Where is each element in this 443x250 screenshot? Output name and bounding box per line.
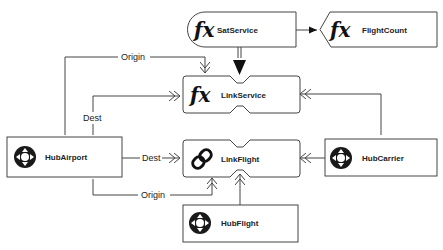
node-hubflight[interactable]: HubFlight [183,205,298,242]
svg-text:LinkService: LinkService [221,91,266,100]
function-icon: fx [192,18,216,42]
hub-icon [14,146,36,168]
function-icon: fx [328,18,352,42]
node-flightcount[interactable]: fx FlightCount [320,12,437,47]
edge-hubairport-linkflight-origin: Origin [93,178,212,201]
edge-hubcarrier-linkservice [300,94,381,135]
hub-icon [330,147,352,169]
edge-label-dest-2: Dest [142,153,161,163]
svg-text:FlightCount: FlightCount [362,26,407,35]
edge-label-dest: Dest [83,113,102,123]
svg-text:HubFlight: HubFlight [221,219,259,228]
edge-hubairport-linkflight-dest: Dest [122,152,180,164]
node-hubcarrier[interactable]: HubCarrier [325,139,437,176]
edge-label-origin-2: Origin [141,190,165,200]
function-icon: fx [188,83,212,107]
node-satservice[interactable]: fx SatService [188,12,297,47]
svg-text:HubCarrier: HubCarrier [362,154,404,163]
diagram-canvas: Origin Dest Dest Origin fx SatService fx… [0,0,443,250]
svg-text:HubAirport: HubAirport [45,153,88,162]
edge-satservice-linkservice [233,47,246,75]
svg-text:LinkFlight: LinkFlight [221,155,260,164]
edge-hubairport-linkservice-dest: Dest [82,96,180,135]
node-linkflight[interactable]: LinkFlight [183,140,300,177]
node-linkservice[interactable]: fx LinkService [183,76,300,113]
svg-text:SatService: SatService [217,26,258,35]
hub-icon [189,212,211,234]
edge-label-origin: Origin [121,52,145,62]
node-hubairport[interactable]: HubAirport [7,137,122,177]
